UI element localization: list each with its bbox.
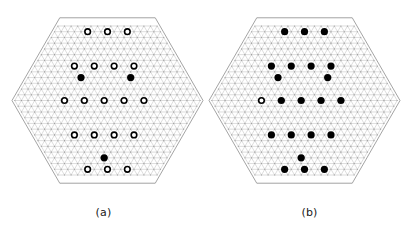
- marker-a-21-open: [125, 167, 131, 173]
- lattice-panel-b: [209, 18, 400, 183]
- marker-b-9-open: [259, 98, 265, 104]
- marker-b-2-filled: [321, 28, 328, 35]
- marker-a-10-open: [82, 98, 88, 104]
- marker-a-11-open: [101, 98, 107, 104]
- marker-a-18-filled: [101, 154, 108, 161]
- marker-b-18-filled: [298, 154, 305, 161]
- panel-caption-b: (b): [206, 206, 413, 219]
- marker-b-12-filled: [317, 97, 324, 104]
- marker-a-5-open: [111, 63, 117, 69]
- marker-b-0-filled: [281, 28, 288, 35]
- marker-a-19-open: [85, 167, 91, 173]
- marker-a-15-open: [91, 132, 97, 138]
- marker-a-1-open: [105, 29, 111, 35]
- marker-a-2-open: [125, 29, 131, 35]
- panel-caption-a: (a): [0, 206, 207, 219]
- marker-b-20-filled: [301, 166, 308, 173]
- marker-b-8-filled: [324, 74, 331, 81]
- marker-b-3-filled: [268, 63, 275, 70]
- marker-a-14-open: [72, 132, 78, 138]
- marker-b-14-filled: [268, 131, 275, 138]
- marker-b-11-filled: [298, 97, 305, 104]
- marker-b-7-filled: [274, 74, 281, 81]
- marker-a-6-open: [131, 63, 137, 69]
- figure-canvas: [0, 0, 413, 231]
- marker-b-19-filled: [281, 166, 288, 173]
- marker-a-16-open: [111, 132, 117, 138]
- marker-a-9-open: [62, 98, 68, 104]
- marker-b-4-filled: [288, 63, 295, 70]
- marker-a-7-filled: [77, 74, 84, 81]
- marker-b-6-filled: [327, 63, 334, 70]
- marker-b-17-filled: [327, 131, 334, 138]
- marker-a-17-open: [131, 132, 137, 138]
- marker-a-0-open: [85, 29, 91, 35]
- marker-b-16-filled: [308, 131, 315, 138]
- marker-a-13-open: [141, 98, 147, 104]
- marker-a-3-open: [72, 63, 78, 69]
- marker-b-21-filled: [321, 166, 328, 173]
- marker-b-10-filled: [278, 97, 285, 104]
- marker-a-8-filled: [127, 74, 134, 81]
- marker-b-15-filled: [288, 131, 295, 138]
- marker-b-1-filled: [301, 28, 308, 35]
- lattice-panel-a: [12, 18, 203, 183]
- marker-b-13-filled: [337, 97, 344, 104]
- marker-b-5-filled: [308, 63, 315, 70]
- marker-a-4-open: [91, 63, 97, 69]
- marker-a-12-open: [121, 98, 127, 104]
- marker-a-20-open: [105, 167, 111, 173]
